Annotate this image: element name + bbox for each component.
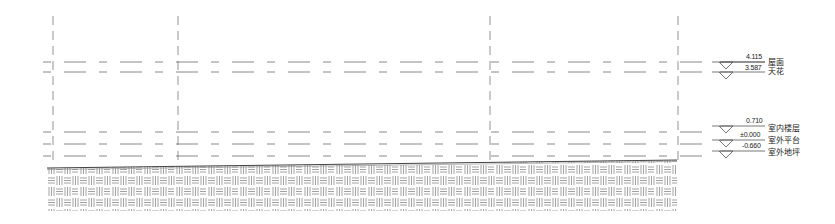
level-name-outdoor-platform: 室外平台: [768, 134, 800, 145]
level-value-indoor-floor: 0.710: [746, 117, 763, 124]
level-lines: [43, 62, 710, 156]
ground-hatch: [47, 155, 677, 211]
level-value-ceiling: 3.587: [745, 64, 762, 71]
grid-lines: [53, 16, 678, 162]
level-value-roof: 4.115: [746, 53, 762, 60]
elevation-drawing: 4.115 3.587 0.710 ±0.000 -0.660 屋面 天花 室内…: [0, 0, 835, 224]
level-value-outdoor-platform: ±0.000: [740, 131, 760, 138]
level-name-indoor-floor: 室内楼层: [768, 122, 800, 133]
level-value-outdoor-ground: -0.660: [742, 142, 761, 149]
level-name-outdoor-ground: 室外地坪: [768, 146, 800, 157]
drawing-canvas: [0, 0, 835, 224]
level-name-ceiling: 天花: [768, 65, 784, 76]
